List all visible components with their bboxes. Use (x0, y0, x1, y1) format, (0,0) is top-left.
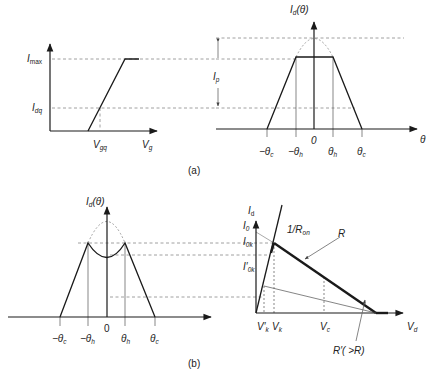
figure-canvas: Imax Idq Vgq Vg Ip Id(θ) θ −θc −θh 0 θh … (0, 0, 432, 377)
imax-label: Imax (27, 53, 43, 65)
ron-label: 1/Ron (287, 224, 310, 236)
idq-label: Idq (32, 102, 42, 115)
tick-theta-c: θc (150, 333, 159, 345)
panel-b-iv-plot: Id I0 I0k I′0k 1/Ron R R′( >R) V′k Vk Vc… (243, 205, 418, 356)
i0-label: I0 (243, 220, 250, 232)
id-theta-label: Id(θ) (290, 4, 309, 16)
tick-theta-c: θc (357, 146, 366, 158)
caption-b: (b) (188, 358, 200, 369)
panel-a-transfer-plot: Imax Idq Vgq Vg (27, 44, 216, 152)
tick-minus-theta-h: −θh (80, 333, 95, 345)
id-theta-label: Id(θ) (86, 196, 105, 208)
ip-label: Ip (213, 71, 220, 84)
r-label: R (338, 228, 345, 239)
panel-b-waveform-plot: Id(θ) −θc −θh 0 θh θc (8, 196, 274, 345)
i0k-label: I0k (243, 236, 253, 248)
vk-prime-label: V′k (257, 321, 270, 333)
tick-minus-theta-h: −θh (288, 146, 303, 158)
theta-axis-label: θ (420, 134, 426, 145)
vgq-label: Vgq (93, 139, 107, 152)
tick-theta-h: θh (328, 146, 337, 158)
caption-a: (a) (188, 165, 200, 176)
tick-zero: 0 (311, 135, 317, 146)
vg-label: Vg (142, 139, 153, 152)
tick-zero: 0 (104, 323, 110, 334)
r-pointer-arrow (305, 237, 340, 259)
ron-line (256, 205, 282, 313)
i0-extension-line (256, 232, 274, 243)
id-axis-label: Id (248, 205, 255, 217)
tick-minus-theta-c: −θc (259, 146, 274, 158)
tick-theta-h: θh (121, 333, 130, 345)
vc-label: Vc (320, 321, 331, 333)
i0k-prime-label: I′0k (243, 261, 255, 273)
transfer-curve (88, 59, 139, 131)
panel-a-waveform-plot: Ip Id(θ) θ −θc −θh 0 θh θc (213, 4, 426, 158)
tick-minus-theta-c: −θc (52, 333, 67, 345)
vk-label: Vk (272, 321, 283, 333)
r-prime-label: R′( >R) (333, 345, 365, 356)
r-prime-pointer-arrow (356, 300, 365, 341)
load-line-r (274, 243, 376, 313)
load-line-r-prime (264, 286, 376, 313)
knee-segment (271, 243, 274, 253)
vd-axis-label: Vd (407, 321, 418, 333)
